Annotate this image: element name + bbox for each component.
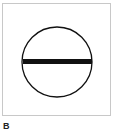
horizontal-bar bbox=[23, 59, 92, 64]
figure-label: B bbox=[3, 121, 10, 131]
circle-bar-symbol-icon bbox=[0, 0, 114, 138]
